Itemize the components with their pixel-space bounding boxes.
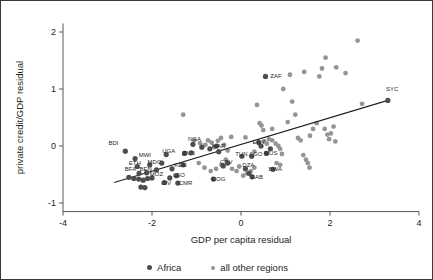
data-point-label-CMR: CMR: [179, 180, 193, 186]
data-point-africa-BDI: [123, 149, 128, 154]
data-point-africa-44: [268, 146, 273, 151]
data-point-other-54: [320, 66, 325, 71]
x-tick-label-3: 2: [327, 218, 332, 228]
data-point-other-17: [196, 161, 201, 166]
x-axis-title: GDP per capita residual: [191, 234, 292, 245]
data-point-africa-41: [225, 161, 230, 166]
data-point-label-EGY: EGY: [253, 139, 266, 145]
scatter-plot: -1012-4-2024GDP per capita residualpriva…: [1, 1, 433, 280]
data-point-other-8: [219, 136, 224, 141]
legend-item-all-other-regions: all other regions: [211, 262, 288, 273]
data-point-other-62: [334, 65, 339, 70]
data-point-other-50: [308, 133, 313, 138]
data-point-other-11: [229, 134, 234, 139]
data-point-africa-28: [136, 176, 141, 181]
data-point-label-TUN: TUN: [235, 151, 247, 157]
data-point-other-67: [243, 135, 248, 140]
data-point-other-42: [293, 112, 298, 117]
x-tick-label-1: -2: [148, 218, 156, 228]
data-point-africa-26: [126, 175, 131, 180]
data-point-other-19: [234, 169, 239, 174]
data-point-other-18: [230, 166, 235, 171]
y-tick-label-2: 1: [51, 84, 56, 94]
data-point-africa-35: [169, 166, 174, 171]
data-point-other-64: [355, 38, 360, 43]
data-point-africa-38: [199, 145, 204, 150]
data-point-label-CIV: CIV: [161, 180, 171, 186]
data-point-africa-40: [216, 149, 221, 154]
data-point-other-0: [181, 112, 186, 117]
y-tick-label-0: -1: [48, 198, 56, 208]
data-point-other-68: [270, 127, 275, 132]
data-point-africa-30: [145, 176, 150, 181]
chart-figure: -1012-4-2024GDP per capita residualpriva…: [0, 0, 433, 280]
data-point-other-58: [328, 131, 333, 136]
legend-label-africa: Africa: [157, 262, 181, 273]
data-point-other-57: [327, 137, 332, 142]
data-point-africa-32: [142, 185, 147, 190]
data-point-other-41: [290, 99, 295, 104]
x-tick-label-4: 4: [416, 218, 421, 228]
data-point-other-27: [259, 123, 264, 128]
data-point-label-LSO: LSO: [173, 172, 185, 178]
data-point-africa-33: [154, 167, 159, 172]
data-point-label-KEN: KEN: [174, 162, 186, 168]
data-point-other-49: [302, 70, 307, 75]
data-point-label-BWA: BWA: [269, 166, 282, 172]
data-point-other-69: [285, 120, 290, 125]
data-point-africa-SYC: [385, 98, 390, 103]
data-point-africa-36: [167, 175, 172, 180]
legend-item-africa: Africa: [147, 262, 181, 273]
data-point-label-GAB: GAB: [250, 174, 263, 180]
legend-marker-africa: [147, 265, 152, 270]
data-point-other-51: [311, 127, 316, 132]
data-point-other-47: [305, 161, 310, 166]
data-point-africa-27: [131, 176, 136, 181]
data-point-label-AGO: AGO: [249, 151, 263, 157]
data-point-other-40: [288, 72, 293, 77]
scatter-plot-canvas: -1012-4-2024GDP per capita residualpriva…: [1, 1, 433, 280]
x-tick-label-2: 0: [238, 218, 243, 228]
y-tick-label-3: 2: [51, 27, 56, 37]
data-point-other-25: [255, 103, 260, 108]
data-point-africa-39: [207, 146, 212, 151]
data-point-label-BDI: BDI: [108, 140, 118, 146]
data-point-africa-29: [141, 178, 146, 183]
data-point-label-BFA: BFA: [125, 166, 136, 172]
data-point-africa-34: [159, 161, 164, 166]
data-point-africa-37: [189, 150, 194, 155]
data-point-other-59: [331, 124, 336, 129]
data-point-label-ZAF: ZAF: [270, 73, 282, 79]
data-point-other-44: [298, 138, 303, 143]
legend-marker-all-other-regions: [211, 266, 215, 270]
data-point-label-COG: COG: [212, 176, 226, 182]
data-point-africa-NGA: [190, 142, 195, 147]
data-point-other-61: [323, 55, 328, 60]
data-point-other-32: [270, 138, 275, 143]
data-point-other-14: [214, 166, 219, 171]
data-point-africa-43: [258, 143, 263, 148]
data-point-label-MWI: MWI: [139, 152, 152, 158]
data-point-other-15: [208, 169, 213, 174]
data-point-other-28: [261, 128, 266, 133]
data-point-africa-ZAF: [263, 74, 268, 79]
data-point-other-48: [307, 165, 312, 170]
data-point-africa-42: [246, 171, 251, 176]
chart-legend: Africa all other regions: [1, 262, 433, 273]
data-point-other-39: [281, 87, 286, 92]
data-point-other-60: [333, 139, 338, 144]
data-point-other-55: [322, 127, 327, 132]
y-tick-label-1: 0: [51, 141, 56, 151]
data-point-other-65: [360, 101, 365, 106]
data-point-other-63: [343, 71, 348, 76]
data-point-other-36: [280, 152, 285, 157]
data-point-label-SYC: SYC: [386, 86, 399, 92]
x-tick-label-0: -4: [59, 218, 67, 228]
data-point-other-21: [241, 173, 246, 178]
data-point-label-MAR: MAR: [212, 143, 226, 149]
y-axis-title: private credit/GDP residual: [14, 61, 25, 174]
data-point-other-16: [202, 165, 207, 170]
data-point-label-DZA: DZA: [242, 162, 254, 168]
data-point-other-35: [278, 146, 283, 151]
data-point-label-ETH: ETH: [129, 160, 141, 166]
